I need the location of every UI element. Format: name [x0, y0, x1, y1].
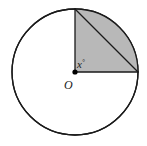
center-label-o: O — [64, 78, 73, 92]
angle-label-degree-symbol: ° — [82, 58, 85, 66]
geometry-figure-container: x° O — [0, 0, 147, 146]
geometry-figure-svg: x° O — [0, 0, 147, 146]
center-point-dot — [72, 69, 77, 74]
